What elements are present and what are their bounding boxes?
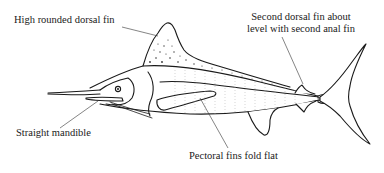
- second-dorsal-fin: [295, 85, 315, 94]
- caudal-fin: [320, 44, 370, 144]
- gill-cover: [148, 72, 153, 116]
- leader-dorsal: [122, 27, 158, 36]
- leader-pectoral: [200, 98, 228, 148]
- label-second-dorsal-fin: Second dorsal fin about level with secon…: [236, 11, 366, 35]
- label-second-dorsal-line-2: level with second anal fin: [236, 23, 366, 35]
- label-second-dorsal-line-1: Second dorsal fin about: [236, 11, 366, 23]
- bill-lower: [48, 94, 100, 95]
- fish-diagram: High rounded dorsal fin Second dorsal fi…: [0, 0, 384, 173]
- second-anal-fin: [296, 101, 316, 112]
- first-anal-fin: [248, 108, 278, 135]
- mandible: [86, 97, 123, 101]
- label-straight-mandible: Straight mandible: [16, 127, 91, 139]
- leader-mandible: [60, 101, 98, 128]
- pelvic-fin: [110, 102, 152, 118]
- body-ventral-outline: [100, 100, 322, 114]
- label-high-rounded-dorsal-fin: High rounded dorsal fin: [14, 14, 115, 26]
- leader-second-dorsal: [282, 37, 303, 84]
- label-pectoral-fins-fold-flat: Pectoral fins fold flat: [189, 150, 278, 162]
- pectoral-fin: [157, 91, 216, 110]
- bill: [48, 90, 100, 93]
